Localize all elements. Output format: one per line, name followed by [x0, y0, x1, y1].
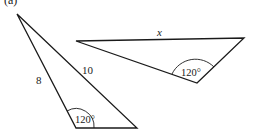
triangle-right-outline — [76, 38, 244, 83]
triangle-left: 8 10 120° — [17, 14, 137, 128]
figure-label: (a) — [4, 0, 17, 7]
angle-label-left: 120° — [75, 114, 95, 125]
side-label-8: 8 — [36, 74, 42, 86]
side-label-10: 10 — [82, 64, 94, 76]
diagram-canvas: (a) 8 10 120° x 120° — [0, 0, 256, 136]
triangle-right: x 120° — [76, 26, 244, 83]
triangle-left-outline — [17, 14, 137, 128]
side-label-x: x — [156, 26, 162, 38]
angle-label-right: 120° — [181, 67, 201, 78]
